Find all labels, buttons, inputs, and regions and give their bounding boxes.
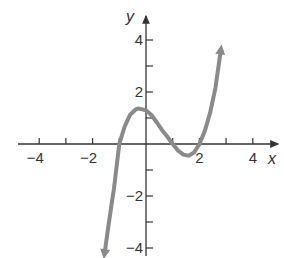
x-tick-label: −2: [80, 149, 97, 166]
chart-plot: −4−22442−2−4 x y: [0, 0, 284, 258]
arrowhead-icon: [100, 249, 110, 258]
arrowhead-icon: [215, 44, 225, 55]
x-axis-label: x: [267, 150, 277, 167]
x-tick-label: −4: [27, 149, 44, 166]
y-tick-label: −4: [126, 239, 143, 256]
y-axis-label: y: [125, 8, 135, 25]
y-tick-label: 4: [135, 31, 143, 48]
axes: [18, 16, 278, 256]
x-tick-label: 4: [249, 149, 257, 166]
y-tick-label: 2: [135, 83, 143, 100]
y-tick-label: −2: [126, 187, 143, 204]
